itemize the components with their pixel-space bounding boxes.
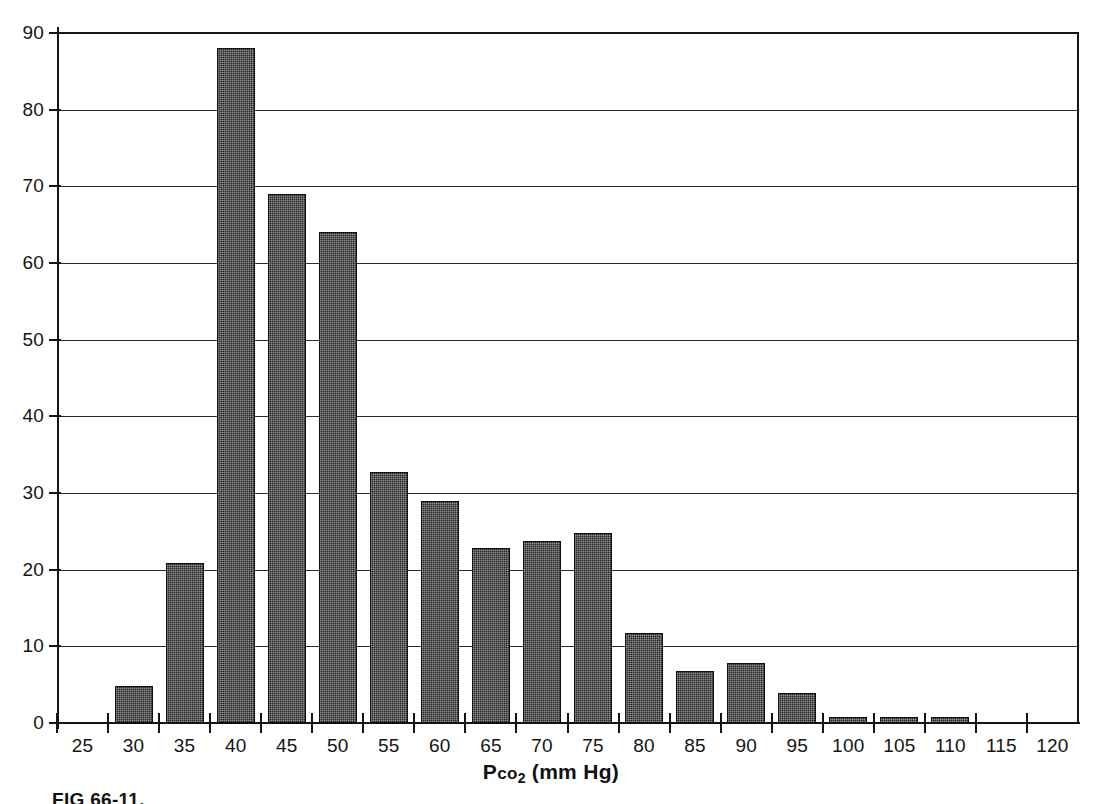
y-axis-line xyxy=(57,27,59,729)
x-axis-title-co: co xyxy=(497,764,517,783)
plot-right-border xyxy=(1077,32,1079,724)
bar-55 xyxy=(370,472,408,723)
x-axis-title-prefix: P xyxy=(483,760,497,783)
y-tick-mark-40 xyxy=(49,415,61,417)
gridline-70 xyxy=(57,186,1078,187)
bar-40 xyxy=(217,48,255,723)
x-tick-mark-19 xyxy=(1026,713,1028,733)
x-tick-mark-3 xyxy=(209,713,211,733)
x-tick-mark-11 xyxy=(618,713,620,733)
x-tick-label-115: 115 xyxy=(986,736,1017,756)
x-tick-label-75: 75 xyxy=(582,736,604,756)
bar-60 xyxy=(421,501,459,723)
y-tick-label-50: 50 xyxy=(22,330,44,349)
x-tick-mark-17 xyxy=(924,713,926,733)
x-tick-mark-15 xyxy=(822,713,824,733)
y-tick-label-90: 90 xyxy=(22,23,44,42)
x-tick-mark-4 xyxy=(260,713,262,733)
x-tick-label-85: 85 xyxy=(684,736,706,756)
bar-75 xyxy=(574,533,612,723)
y-tick-label-80: 80 xyxy=(22,100,44,119)
y-tick-mark-20 xyxy=(49,569,61,571)
x-tick-mark-10 xyxy=(567,713,569,733)
y-tick-mark-30 xyxy=(49,492,61,494)
x-tick-label-50: 50 xyxy=(327,736,349,756)
x-tick-label-25: 25 xyxy=(72,736,94,756)
x-tick-label-65: 65 xyxy=(480,736,502,756)
y-tick-label-70: 70 xyxy=(22,176,44,195)
y-tick-mark-10 xyxy=(49,645,61,647)
y-tick-label-30: 30 xyxy=(22,483,44,502)
bar-95 xyxy=(778,693,816,723)
x-tick-mark-16 xyxy=(873,713,875,733)
bar-90 xyxy=(727,663,765,723)
x-tick-mark-14 xyxy=(771,713,773,733)
bar-50 xyxy=(319,232,357,723)
gridline-60 xyxy=(57,263,1078,264)
x-axis-title-subscript: 2 xyxy=(518,770,526,786)
x-tick-label-110: 110 xyxy=(935,736,966,756)
bar-45 xyxy=(268,194,306,723)
plot-area xyxy=(57,33,1078,723)
gridline-10 xyxy=(57,646,1078,647)
x-axis-title: Pco2 (mm Hg) xyxy=(0,760,1102,786)
x-tick-label-30: 30 xyxy=(123,736,145,756)
figure-caption: FIG 66-11. xyxy=(52,789,145,804)
x-axis-title-units: (mm Hg) xyxy=(526,760,619,783)
bar-105 xyxy=(880,717,918,723)
gridline-20 xyxy=(57,570,1078,571)
bar-35 xyxy=(166,563,204,723)
x-tick-mark-5 xyxy=(311,713,313,733)
bar-65 xyxy=(472,548,510,723)
x-tick-mark-9 xyxy=(515,713,517,733)
x-tick-label-105: 105 xyxy=(883,736,915,756)
x-tick-mark-2 xyxy=(158,713,160,733)
figure-container: 0102030405060708090 25303540455055606570… xyxy=(0,0,1102,804)
y-tick-label-60: 60 xyxy=(22,253,44,272)
x-tick-label-95: 95 xyxy=(786,736,808,756)
x-tick-mark-6 xyxy=(362,713,364,733)
bar-100 xyxy=(829,717,867,723)
x-tick-label-45: 45 xyxy=(276,736,298,756)
y-tick-mark-80 xyxy=(49,109,61,111)
x-tick-label-35: 35 xyxy=(174,736,196,756)
gridline-80 xyxy=(57,110,1078,111)
y-tick-mark-50 xyxy=(49,339,61,341)
bar-30 xyxy=(115,686,153,723)
x-tick-label-70: 70 xyxy=(531,736,553,756)
x-tick-mark-8 xyxy=(464,713,466,733)
y-tick-mark-70 xyxy=(49,185,61,187)
x-tick-label-100: 100 xyxy=(832,736,864,756)
y-tick-label-0: 0 xyxy=(33,713,44,732)
x-tick-mark-7 xyxy=(413,713,415,733)
gridline-90 xyxy=(57,32,1078,34)
bar-80 xyxy=(625,633,663,723)
gridline-50 xyxy=(57,340,1078,341)
gridline-40 xyxy=(57,416,1078,417)
y-tick-label-20: 20 xyxy=(22,560,44,579)
x-tick-label-55: 55 xyxy=(378,736,400,756)
bar-70 xyxy=(523,541,561,723)
gridline-30 xyxy=(57,493,1078,494)
x-tick-label-80: 80 xyxy=(633,736,655,756)
x-tick-label-120: 120 xyxy=(1036,736,1068,756)
x-tick-mark-18 xyxy=(975,713,977,733)
x-tick-mark-12 xyxy=(669,713,671,733)
bar-110 xyxy=(931,717,969,723)
x-tick-label-90: 90 xyxy=(735,736,757,756)
x-tick-mark-13 xyxy=(720,713,722,733)
x-tick-mark-1 xyxy=(107,713,109,733)
y-tick-mark-90 xyxy=(49,32,61,34)
y-tick-mark-60 xyxy=(49,262,61,264)
y-tick-label-40: 40 xyxy=(22,406,44,425)
x-tick-mark-0 xyxy=(56,713,58,733)
x-tick-label-60: 60 xyxy=(429,736,451,756)
bar-85 xyxy=(676,671,714,723)
y-tick-label-10: 10 xyxy=(22,636,44,655)
x-tick-label-40: 40 xyxy=(225,736,247,756)
